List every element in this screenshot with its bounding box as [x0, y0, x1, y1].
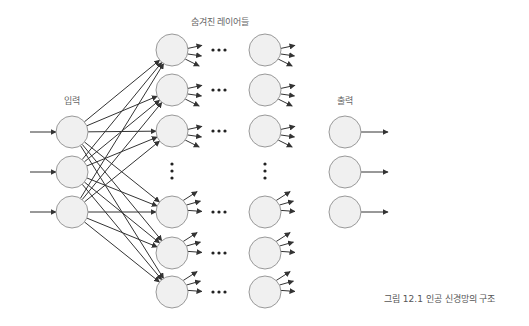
fanout-arrow	[281, 54, 295, 56]
weight-edge	[82, 102, 162, 199]
fanout-arrow	[188, 210, 202, 211]
input-node	[56, 116, 88, 148]
ellipsis-dot	[211, 290, 214, 293]
hidden-node	[156, 276, 188, 308]
fanout-arrow	[281, 126, 295, 129]
figure-caption: 그림 12.1 인공 신경망의 구조	[384, 292, 495, 305]
weight-edge	[84, 222, 159, 282]
hidden-node	[156, 196, 188, 228]
hidden-node	[249, 196, 281, 228]
fanout-arrow	[276, 233, 290, 242]
fanout-arrow	[278, 59, 292, 66]
weight-edge	[82, 62, 162, 159]
ellipsis-dot	[223, 290, 226, 293]
ellipsis-dot	[211, 251, 214, 254]
hidden-layers-label: 숨겨진 레이어들	[191, 15, 250, 28]
ellipsis-dot	[211, 88, 214, 91]
ellipsis-dot	[217, 48, 220, 51]
hidden-node	[249, 74, 281, 106]
ellipsis-dot	[217, 210, 220, 213]
ellipsis-dot	[223, 210, 226, 213]
output-layer-label: 출력	[337, 94, 353, 107]
ellipsis-dot	[211, 210, 214, 213]
fanout-arrow	[276, 272, 290, 281]
fanout-arrow	[185, 99, 199, 106]
hidden-node	[249, 34, 281, 66]
ellipsis-dot	[170, 176, 173, 179]
fanout-arrow	[188, 85, 202, 88]
hidden-node	[249, 237, 281, 269]
fanout-arrow	[276, 192, 290, 201]
ellipsis-dot	[223, 88, 226, 91]
fanout-arrow	[185, 59, 199, 66]
fanout-arrow	[185, 140, 199, 147]
fanout-arrow	[183, 272, 197, 281]
hidden-node	[249, 276, 281, 308]
fanout-arrow	[281, 94, 295, 96]
fanout-arrow	[281, 135, 295, 137]
ellipsis-dot	[263, 176, 266, 179]
fanout-arrow	[186, 242, 200, 246]
ellipsis-dot	[217, 129, 220, 132]
fanout-arrow	[188, 94, 202, 96]
fanout-arrow	[278, 99, 292, 106]
ellipsis-dot	[223, 251, 226, 254]
hidden-node	[156, 34, 188, 66]
fanout-arrow	[281, 45, 295, 48]
neuron-nodes	[56, 34, 361, 308]
fanout-arrow	[281, 251, 295, 252]
fanout-arrow	[279, 242, 293, 246]
ellipsis-dot	[263, 162, 266, 165]
ellipsis-dot	[211, 48, 214, 51]
ellipsis-dot	[170, 162, 173, 165]
hidden-node	[156, 74, 188, 106]
hidden-node	[156, 115, 188, 147]
input-layer-label: 입력	[64, 94, 80, 107]
fanout-arrow	[188, 126, 202, 129]
fanout-arrow	[188, 45, 202, 48]
fanout-arrow	[281, 85, 295, 88]
fanout-arrow	[188, 251, 202, 252]
input-node	[56, 156, 88, 188]
output-node	[329, 196, 361, 228]
fanout-arrow	[278, 140, 292, 147]
weight-edge	[84, 60, 159, 122]
ellipsis-dot	[217, 290, 220, 293]
output-node	[329, 116, 361, 148]
fanout-arrow	[281, 210, 295, 211]
neural-network-diagram	[0, 0, 529, 326]
ellipsis-dot	[217, 251, 220, 254]
ellipsis-dot	[223, 48, 226, 51]
ellipsis-dot	[217, 88, 220, 91]
hidden-node	[156, 237, 188, 269]
fanout-arrow	[188, 54, 202, 56]
ellipsis-dot	[170, 169, 173, 172]
input-node	[56, 196, 88, 228]
fanout-arrow	[188, 290, 202, 291]
fanout-arrow	[279, 201, 293, 205]
hidden-node	[249, 115, 281, 147]
fanout-arrow	[186, 281, 200, 285]
ellipsis-dot	[211, 129, 214, 132]
fanout-arrow	[186, 201, 200, 205]
ellipsis-dot	[223, 129, 226, 132]
fanout-arrow	[183, 192, 197, 201]
fanout-arrow	[279, 281, 293, 285]
ellipsis-dot	[263, 169, 266, 172]
fanout-arrow	[281, 290, 295, 291]
output-node	[329, 156, 361, 188]
fanout-arrow	[188, 135, 202, 137]
fanout-arrow	[183, 233, 197, 242]
